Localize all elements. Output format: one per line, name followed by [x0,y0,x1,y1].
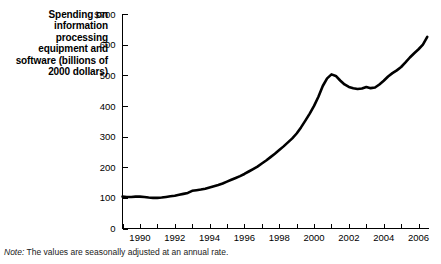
x-axis-tick-labels: 199019921994199619982000200220042006 [129,232,429,243]
x-axis: 199019921994199619982000200220042006 [123,224,430,243]
y-tick-label: 200 [100,162,116,173]
x-tick-label: 2002 [338,232,359,243]
y-tick-label: 300 [100,131,116,142]
note-label: Note: [4,247,24,257]
data-series-line [123,37,428,198]
chart-title: Spending on information processing equip… [4,9,108,77]
y-tick-label: 100 [100,192,116,203]
chart-note: Note: The values are seasonally adjusted… [4,247,228,257]
x-tick-label: 1992 [164,232,185,243]
y-tick-label: 400 [100,101,116,112]
x-tick-label: 1996 [234,232,255,243]
y-tick-label: 0 [110,223,115,234]
note-text: The values are seasonally adjusted at an… [24,247,228,257]
x-tick-label: 1994 [199,232,220,243]
x-tick-label: 2004 [373,232,394,243]
x-tick-label: 1990 [129,232,150,243]
x-tick-label: 2006 [408,232,429,243]
x-axis-ticks [123,224,419,229]
x-tick-label: 1998 [269,232,290,243]
x-tick-label: 2000 [303,232,324,243]
chart-figure: Spending on information processing equip… [0,0,441,264]
